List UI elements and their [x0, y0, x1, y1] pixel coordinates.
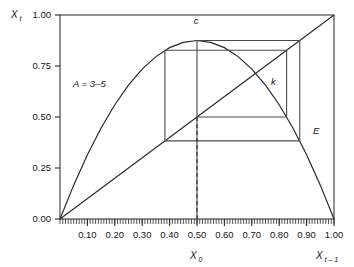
y-axis-tick-labels: 0.00 0.25 0.50 0.75 1.00 — [33, 9, 52, 224]
x-tick-label: 0.20 — [106, 229, 125, 240]
y-axis-title-subscript: t — [20, 15, 23, 22]
x-tick-label: 0.60 — [215, 229, 234, 240]
x-tick-label: 0.10 — [78, 229, 97, 240]
x-axis-title: X t – 1 — [315, 250, 338, 263]
x-axis-title-subscript: t – 1 — [325, 256, 339, 263]
point-label-k: k — [271, 76, 277, 87]
y-tick-label: 1.00 — [33, 9, 52, 20]
x-axis-title-main: X — [315, 250, 323, 261]
y-axis-title-main: X — [10, 9, 18, 20]
x-tick-label: 1.00 — [325, 229, 344, 240]
x-tick-label: 0.30 — [133, 229, 152, 240]
x-tick-label: 0.90 — [297, 229, 316, 240]
x0-label-main: X — [189, 250, 197, 261]
point-label-c: c — [194, 15, 199, 26]
x-tick-label: 0.40 — [160, 229, 179, 240]
cobweb-diagram-figure: 0.00 0.25 0.50 0.75 1.00 0.10 0.20 0.30 … — [0, 0, 354, 267]
x0-label-subscript: 0 — [199, 256, 203, 263]
y-tick-label: 0.50 — [33, 111, 52, 122]
chart-canvas: 0.00 0.25 0.50 0.75 1.00 0.10 0.20 0.30 … — [0, 0, 354, 267]
x-tick-label: 0.70 — [243, 229, 262, 240]
x-tick-label: 0.80 — [270, 229, 289, 240]
y-tick-label: 0.00 — [33, 213, 52, 224]
y-tick-label: 0.75 — [33, 60, 52, 71]
x-axis-tick-labels: 0.10 0.20 0.30 0.40 0.50 0.60 0.70 0.80 … — [78, 229, 343, 240]
x-tick-label: 0.50 — [188, 229, 207, 240]
y-tick-label: 0.25 — [33, 162, 52, 173]
y-axis-title: X t — [10, 9, 23, 22]
x0-axis-label: X 0 — [189, 250, 203, 263]
point-label-e: E — [313, 125, 320, 136]
cobweb-trajectory-path — [165, 41, 300, 220]
y-axis-ticks — [55, 15, 60, 219]
parameter-annotation: A = 3–5 — [72, 78, 106, 89]
